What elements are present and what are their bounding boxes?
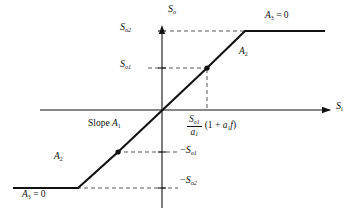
breakpoint-dot-negative: [115, 149, 120, 154]
annotation-slope-a1: Slope A1: [88, 119, 121, 129]
annotation-breakpoint-formula: So1 a1 (1 + a1f): [187, 115, 236, 137]
formula-fraction: So1 a1: [187, 115, 202, 137]
transfer-characteristic-figure: So So2 So1 Si −So1 −So2 A3 = 0 A3 = 0 A2…: [0, 0, 361, 217]
tick-label-negative-so1: −So1: [180, 145, 197, 155]
formula-numerator: So1: [187, 115, 202, 126]
tick-label-so2: So2: [120, 22, 131, 32]
formula-tail: (1 + a1f): [205, 121, 237, 131]
annotation-a2-lower: A2: [54, 152, 63, 162]
annotation-a3-bottom: A3 = 0: [22, 190, 46, 200]
x-axis-label: Si: [336, 101, 343, 111]
tick-label-negative-so2: −So2: [180, 175, 197, 185]
y-axis-label: So: [168, 4, 176, 14]
tick-label-so1: So1: [120, 59, 131, 69]
annotation-a2-upper: A2: [239, 47, 248, 57]
formula-denominator: a1: [187, 126, 202, 138]
x-axis-arrowhead: [322, 107, 331, 113]
breakpoint-dot-positive: [204, 65, 209, 70]
y-axis-arrowhead: [159, 25, 165, 34]
annotation-a3-top: A3 = 0: [265, 11, 289, 21]
